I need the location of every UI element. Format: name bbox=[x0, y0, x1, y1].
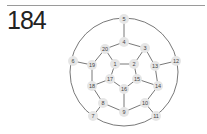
node-12: 12 bbox=[171, 56, 181, 66]
node-14: 14 bbox=[153, 81, 163, 91]
node-2: 2 bbox=[129, 59, 139, 69]
node-16: 16 bbox=[119, 84, 129, 94]
node-5: 5 bbox=[119, 14, 129, 24]
node-label: 11 bbox=[153, 113, 159, 119]
node-label: 13 bbox=[152, 63, 158, 69]
node-label: 10 bbox=[142, 100, 148, 106]
node-10: 10 bbox=[140, 98, 150, 108]
node-6: 6 bbox=[68, 56, 78, 66]
node-11: 11 bbox=[151, 111, 161, 121]
node-1: 1 bbox=[110, 59, 120, 69]
node-20: 20 bbox=[100, 44, 110, 54]
node-19: 19 bbox=[87, 60, 97, 70]
node-label: 8 bbox=[101, 100, 104, 106]
node-label: 18 bbox=[89, 83, 95, 89]
node-15: 15 bbox=[132, 74, 142, 84]
node-label: 7 bbox=[91, 113, 94, 119]
node-label: 2 bbox=[132, 61, 135, 67]
node-label: 14 bbox=[155, 83, 161, 89]
node-label: 17 bbox=[107, 76, 113, 82]
node-label: 15 bbox=[134, 76, 140, 82]
node-label: 6 bbox=[71, 58, 74, 64]
node-label: 20 bbox=[102, 46, 108, 52]
node-18: 18 bbox=[87, 81, 97, 91]
node-label: 12 bbox=[173, 58, 179, 64]
node-label: 19 bbox=[89, 62, 95, 68]
node-label: 16 bbox=[121, 86, 127, 92]
node-13: 13 bbox=[150, 61, 160, 71]
node-label: 3 bbox=[143, 45, 146, 51]
node-label: 5 bbox=[122, 16, 125, 22]
node-4: 4 bbox=[119, 37, 129, 47]
node-7: 7 bbox=[88, 111, 98, 121]
node-label: 1 bbox=[113, 61, 116, 67]
graph-diagram: 1234567891011121314151617181920 bbox=[0, 0, 207, 134]
node-3: 3 bbox=[140, 43, 150, 53]
node-label: 9 bbox=[122, 109, 125, 115]
node-8: 8 bbox=[98, 98, 108, 108]
node-label: 4 bbox=[122, 39, 125, 45]
node-17: 17 bbox=[105, 74, 115, 84]
node-9: 9 bbox=[119, 107, 129, 117]
